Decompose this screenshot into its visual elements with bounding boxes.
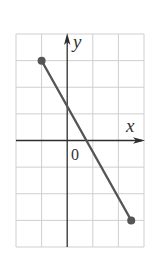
- axes: [16, 33, 145, 247]
- endpoint-dot: [38, 57, 46, 65]
- x-axis-label: x: [125, 115, 135, 136]
- coordinate-graph: x y 0: [0, 0, 151, 263]
- y-axis-label: y: [71, 31, 82, 52]
- origin-label: 0: [71, 146, 79, 163]
- endpoint-dot: [127, 216, 135, 224]
